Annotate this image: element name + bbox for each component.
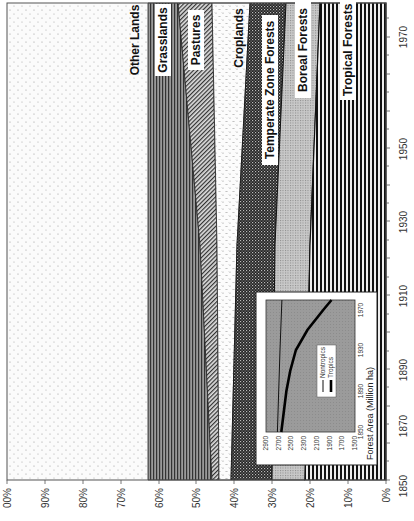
svg-text:2100: 2100	[313, 436, 320, 451]
svg-text:0%: 0%	[381, 488, 392, 503]
label-boreal-forests: Boreal Forests	[296, 8, 310, 92]
percent-axis-labels: 0% 10% 20% 30% 40% 50% 60% 70% 80% 90% 0…	[2, 488, 392, 508]
land-use-chart: Other Lands Grasslands Pastures Cropland…	[0, 0, 414, 521]
label-pastures: Pastures	[189, 14, 203, 65]
svg-text:1950: 1950	[398, 137, 409, 160]
svg-text:2900: 2900	[262, 436, 269, 451]
inset-legend: Nontropics Tropics	[317, 345, 336, 397]
svg-text:50%: 50%	[191, 488, 202, 508]
svg-text:00%: 00%	[2, 488, 13, 508]
inset-chart: Nontropics Tropics 1850 1890 1930 1970 1…	[256, 292, 377, 465]
svg-text:1850: 1850	[357, 424, 364, 439]
svg-text:1930: 1930	[357, 342, 364, 357]
label-grasslands: Grasslands	[156, 7, 170, 73]
label-other-lands: Other Lands	[128, 4, 142, 75]
svg-text:2700: 2700	[275, 436, 282, 451]
label-tropical-forests: Tropical Forests	[341, 3, 355, 96]
svg-text:70%: 70%	[116, 488, 127, 508]
label-croplands: Croplands	[232, 8, 246, 68]
svg-text:1850: 1850	[398, 474, 409, 497]
svg-text:Tropics: Tropics	[327, 356, 335, 378]
svg-text:1500: 1500	[351, 436, 358, 451]
svg-text:2300: 2300	[300, 436, 307, 451]
svg-text:1900: 1900	[326, 436, 333, 451]
svg-text:Nontropics: Nontropics	[319, 346, 327, 378]
svg-text:20%: 20%	[305, 488, 316, 508]
svg-text:60%: 60%	[154, 488, 165, 508]
svg-text:1890: 1890	[398, 358, 409, 381]
svg-text:2500: 2500	[287, 436, 294, 451]
svg-text:30%: 30%	[267, 488, 278, 508]
year-axis-labels: 1850 1870 1890 1910 1930 1950 1970	[398, 25, 409, 497]
label-temperate-forests: Temperate Zone Forests	[263, 20, 277, 159]
svg-text:10%: 10%	[343, 488, 354, 508]
svg-text:80%: 80%	[78, 488, 89, 508]
svg-text:1970: 1970	[357, 302, 364, 317]
svg-text:1930: 1930	[398, 210, 409, 233]
svg-text:1910: 1910	[398, 284, 409, 307]
svg-text:90%: 90%	[40, 488, 51, 508]
svg-text:1970: 1970	[398, 25, 409, 48]
inset-ylabel: Forest Area (Million ha)	[365, 367, 375, 460]
svg-text:1890: 1890	[357, 383, 364, 398]
svg-text:40%: 40%	[229, 488, 240, 508]
svg-text:1870: 1870	[398, 414, 409, 437]
svg-text:1700: 1700	[338, 436, 345, 451]
area-other-lands	[7, 3, 148, 480]
